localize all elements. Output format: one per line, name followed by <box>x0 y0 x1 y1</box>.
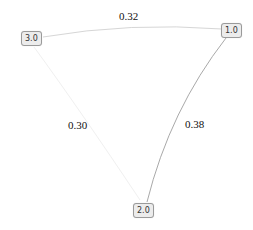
graph-canvas: 0.32 0.30 0.38 3.0 1.0 2.0 <box>0 0 253 230</box>
node-1[interactable]: 1.0 <box>221 23 242 38</box>
edge-label-3-1: 0.32 <box>119 10 138 22</box>
node-2[interactable]: 2.0 <box>133 203 154 218</box>
edge-3-1[interactable] <box>43 27 222 37</box>
edge-label-1-2: 0.38 <box>185 118 204 130</box>
node-3[interactable]: 3.0 <box>21 31 42 46</box>
edge-label-3-2: 0.30 <box>68 119 87 131</box>
